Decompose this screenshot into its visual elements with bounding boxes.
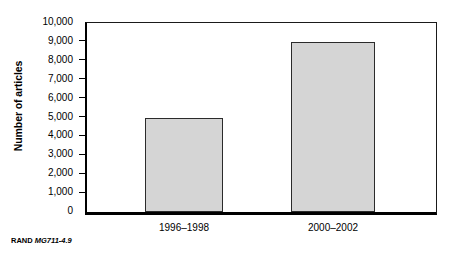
bar-1996-1998[interactable] xyxy=(145,118,223,213)
x-label-1996-1998: 1996–1998 xyxy=(143,222,225,233)
y-tick-label: 9,000 xyxy=(48,36,79,46)
bar-2000-2002[interactable] xyxy=(291,42,375,212)
bar-chart-figure: Number of articles 10,000 9,000 8,000 7,… xyxy=(0,0,458,254)
x-label-2000-2002: 2000–2002 xyxy=(291,222,375,233)
y-tick-label: 7,000 xyxy=(48,74,79,84)
source-brand: RAND xyxy=(11,236,33,245)
y-axis-ticks: 10,000 9,000 8,000 7,000 6,000 5,000 4,0… xyxy=(0,0,85,214)
source-caption: RAND MG711-4.9 xyxy=(11,236,72,245)
y-tick-label: 5,000 xyxy=(48,112,79,122)
y-tick-label: 8,000 xyxy=(48,55,79,65)
y-tick-label: 4,000 xyxy=(48,130,79,140)
y-tick-label: 10,000 xyxy=(42,17,79,27)
y-tick-label: 6,000 xyxy=(48,93,79,103)
y-tick-label: 0 xyxy=(67,206,79,216)
source-document-id: MG711-4.9 xyxy=(35,236,72,245)
y-tick-label: 2,000 xyxy=(48,168,79,178)
plot-area xyxy=(85,22,437,215)
y-tick-label: 1,000 xyxy=(48,187,79,197)
y-tick-label: 3,000 xyxy=(48,149,79,159)
